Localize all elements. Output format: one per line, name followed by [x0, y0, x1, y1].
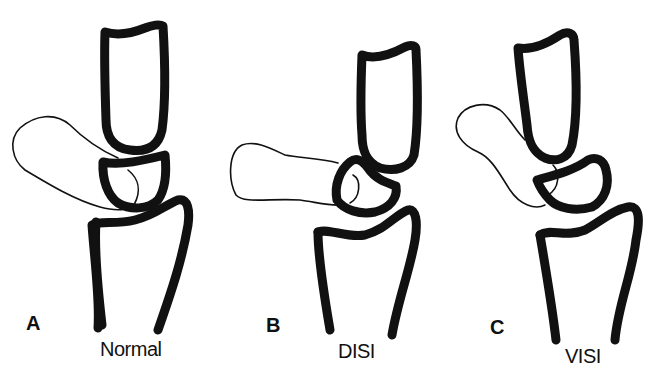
panel-caption-b: DISI [338, 340, 375, 363]
panel-label-c: C [490, 316, 504, 339]
panel-a-scaphoid-overlap [128, 170, 138, 205]
panel-caption-a: Normal [100, 338, 161, 361]
panel-a-lunate [103, 155, 166, 208]
panel-b-radius-left [318, 232, 330, 330]
wrist-diagram [0, 0, 660, 384]
panel-a-capitate [105, 25, 165, 151]
panel-c-scaphoid [456, 105, 545, 207]
panel-b-capitate [361, 46, 417, 170]
panel-a-normal [13, 25, 189, 330]
panel-b-scaphoid-overlap [350, 175, 359, 203]
panel-c-radius-left [540, 235, 556, 340]
panel-label-a: A [26, 312, 40, 335]
panel-b-disi [231, 46, 418, 335]
panel-b-radius [318, 210, 416, 335]
panel-c-visi [456, 33, 638, 340]
panel-a-radius-left [95, 222, 102, 325]
panel-c-lunate [537, 158, 607, 209]
panel-c-capitate [518, 33, 576, 160]
panel-label-b: B [266, 314, 280, 337]
panel-caption-c: VISI [565, 345, 601, 368]
panel-b-scaphoid [231, 143, 340, 205]
panel-a-radius [92, 200, 189, 330]
